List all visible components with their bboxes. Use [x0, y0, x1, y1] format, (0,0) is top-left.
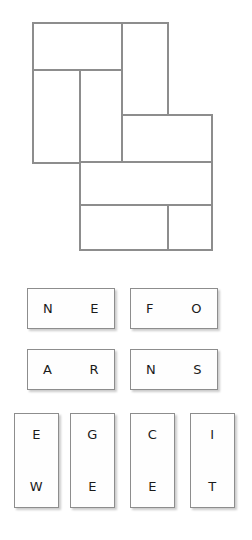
tile-letter: N: [43, 302, 53, 315]
tile-letter: I: [210, 428, 214, 441]
tile-ce[interactable]: CE: [130, 413, 175, 508]
tile-letter: F: [146, 302, 154, 315]
cell-left-tall[interactable]: [33, 70, 80, 163]
tile-letter: W: [30, 480, 43, 493]
tile-letter: E: [88, 480, 97, 493]
cell-top-left[interactable]: [33, 23, 122, 70]
tile-letter: N: [146, 363, 156, 376]
tile-letter: O: [191, 302, 202, 315]
tile-letter: E: [148, 480, 157, 493]
tile-fo[interactable]: FO: [130, 288, 218, 329]
tile-letter: G: [87, 428, 98, 441]
cell-top-right[interactable]: [122, 23, 168, 115]
tile-letter: T: [208, 480, 216, 493]
puzzle-board: [0, 0, 252, 262]
tile-ew[interactable]: EW: [14, 413, 59, 508]
cell-mid-right[interactable]: [122, 115, 212, 162]
tile-letter: C: [148, 428, 158, 441]
tile-letter: S: [193, 363, 202, 376]
tile-letter: E: [90, 302, 99, 315]
tile-tray: NEFOARNSEWGECEIT: [0, 262, 252, 540]
tile-it[interactable]: IT: [190, 413, 235, 508]
tile-ar[interactable]: AR: [27, 349, 115, 390]
tile-letter: A: [43, 363, 52, 376]
tile-letter: R: [89, 363, 99, 376]
tile-ns[interactable]: NS: [130, 349, 218, 390]
cell-bottom-lower-left[interactable]: [80, 205, 168, 250]
puzzle-grid-svg: [0, 0, 252, 262]
tile-ge[interactable]: GE: [70, 413, 115, 508]
cell-bottom-upper[interactable]: [80, 162, 212, 205]
cell-bottom-lower-right[interactable]: [168, 205, 212, 250]
tile-ne[interactable]: NE: [27, 288, 115, 329]
cell-mid-left[interactable]: [80, 70, 122, 163]
tile-letter: E: [32, 428, 41, 441]
